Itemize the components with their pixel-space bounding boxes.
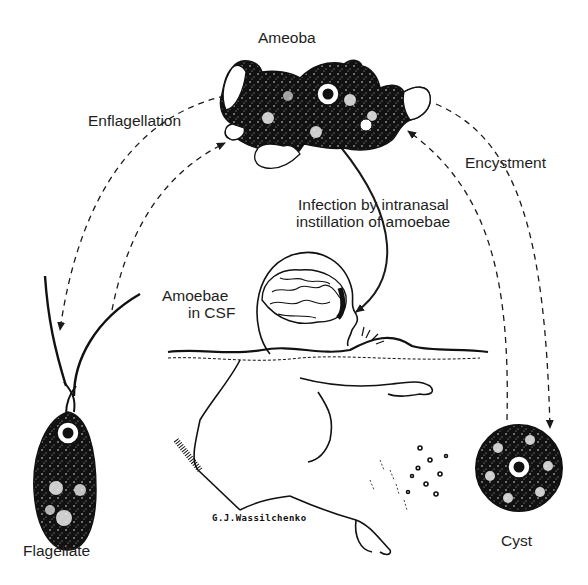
enflagellation-label: Enflagellation <box>88 112 181 130</box>
cyst-label: Cyst <box>501 532 532 550</box>
cyst-cell <box>476 425 562 511</box>
encystment-label: Encystment <box>465 154 546 172</box>
ameoba-cell <box>220 60 430 168</box>
flagellate-label: Flagellate <box>23 542 90 560</box>
amoebae-csf-label-line2: in CSF <box>188 304 235 322</box>
infection-label-line1: Infection by intranasal <box>298 196 449 214</box>
life-cycle-illustration <box>0 0 588 585</box>
artist-signature: G.J.Wassilchenko <box>212 513 307 523</box>
encystment-outer-arrow <box>436 104 550 428</box>
encystment-inner-arrow <box>408 131 507 420</box>
enflagellation-inner-arrow <box>112 143 225 310</box>
amoebae-csf-label-line1: Amoebae <box>162 287 228 305</box>
flagellate-cell <box>34 276 140 550</box>
infection-label-line2: instillation of amoebae <box>296 213 450 231</box>
ameoba-label: Ameoba <box>258 29 316 47</box>
